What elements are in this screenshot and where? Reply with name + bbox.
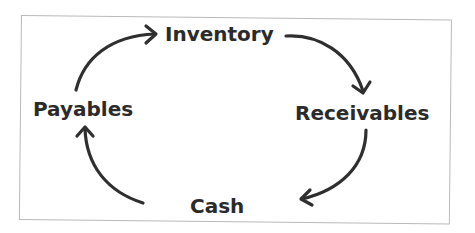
cycle-arrows	[0, 0, 475, 233]
arrow-cash-to-payables-icon	[77, 127, 143, 203]
arrow-receivables-to-cash-icon	[301, 130, 366, 205]
arrow-payables-to-inventory-icon	[76, 26, 156, 90]
arrow-inventory-to-receivables-icon	[286, 36, 370, 93]
